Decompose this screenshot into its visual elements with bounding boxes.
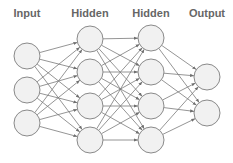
connection-edge xyxy=(103,38,138,39)
connection-edge xyxy=(162,45,197,69)
layer-labels: Input Hidden Hidden Output xyxy=(14,7,226,19)
hidden-1-node-1 xyxy=(77,26,103,52)
hidden-1-node-2 xyxy=(77,59,103,85)
hidden-2-node-4 xyxy=(138,127,164,153)
hidden-2-node-1 xyxy=(138,25,164,51)
hidden-1-node-4 xyxy=(77,127,103,153)
connection-edge xyxy=(40,109,78,119)
connection-edge xyxy=(37,98,80,132)
hidden-1-node-3 xyxy=(77,93,103,119)
input-node-2 xyxy=(14,77,40,103)
layer-label-hidden-2: Hidden xyxy=(132,7,170,19)
hidden-2-node-2 xyxy=(138,59,164,85)
output-node-1 xyxy=(194,64,220,90)
layer-label-hidden-1: Hidden xyxy=(71,7,109,19)
input-node-1 xyxy=(14,43,40,69)
layer-label-output: Output xyxy=(189,7,225,19)
hidden-2-node-3 xyxy=(138,93,164,119)
connections xyxy=(35,38,199,140)
connection-edge xyxy=(160,87,199,131)
neural-network-diagram: Input Hidden Hidden Output xyxy=(0,0,233,163)
output-node-2 xyxy=(194,100,220,126)
connection-edge xyxy=(40,42,78,52)
connection-edge xyxy=(40,126,78,136)
input-node-3 xyxy=(14,110,40,136)
layer-label-input: Input xyxy=(14,7,41,19)
connection-edge xyxy=(35,49,82,112)
